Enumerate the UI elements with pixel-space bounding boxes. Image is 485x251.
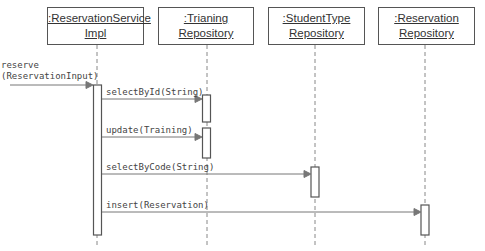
- message-update: update(Training): [106, 125, 193, 135]
- arrow-head-icon: [414, 209, 421, 216]
- participant-name: :Trianing: [159, 11, 253, 26]
- participant-name: :StudentType: [269, 11, 364, 26]
- message-selectbyid: selectById(String): [106, 87, 204, 97]
- message-selectbycode: selectByCode(String): [106, 162, 214, 172]
- arrow-head-icon: [86, 82, 93, 89]
- message-insert: insert(Reservation): [106, 200, 209, 210]
- activation-bar-selectbycode: [311, 167, 319, 197]
- participant-name: Repository: [379, 26, 474, 41]
- activation-bar-service: [94, 85, 102, 235]
- arrow-head-icon: [195, 134, 202, 141]
- participant-name: Repository: [269, 26, 364, 41]
- participant-trianing-repository: :Trianing Repository: [158, 7, 254, 45]
- participant-reservation-repository: :Reservation Repository: [378, 7, 475, 45]
- message-reserve: reserve: [1, 60, 39, 70]
- arrow-head-icon: [304, 171, 311, 178]
- participant-name: :Reservation: [379, 11, 474, 26]
- participant-reservation-service-impl: :ReservationService Impl: [47, 7, 144, 45]
- participant-name: Repository: [159, 26, 253, 41]
- participant-name: :ReservationService: [48, 11, 143, 26]
- activation-bar-selectbyid: [203, 95, 211, 122]
- message-reserve-args: (ReservationInput): [1, 71, 99, 81]
- participant-studenttype-repository: :StudentType Repository: [268, 7, 365, 45]
- activation-bar-insert: [421, 205, 429, 235]
- participant-name: Impl: [48, 26, 143, 41]
- activation-bar-update: [203, 128, 211, 158]
